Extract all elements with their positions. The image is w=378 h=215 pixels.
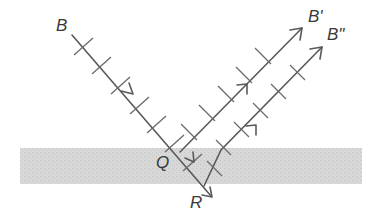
arrowhead-icon bbox=[246, 125, 256, 135]
label-b-prime: B' bbox=[308, 7, 323, 26]
arrowhead-icon bbox=[121, 83, 133, 94]
medium-layer bbox=[20, 148, 362, 184]
reflection-diagram: B B' B" Q R bbox=[0, 0, 378, 215]
reflected-ray-b-prime bbox=[180, 28, 302, 152]
label-r: R bbox=[190, 193, 202, 212]
label-b: B bbox=[56, 16, 67, 35]
label-b-double-prime: B" bbox=[327, 25, 345, 44]
label-q: Q bbox=[156, 153, 169, 172]
